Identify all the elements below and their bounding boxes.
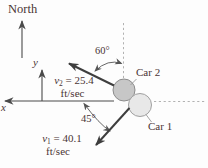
x-axis-label: x: [1, 102, 6, 113]
v2-value-label: v2 = 25.4: [50, 75, 98, 86]
diagram-canvas: [0, 0, 208, 168]
v1-vector: [96, 108, 130, 145]
car1-label: Car 1: [148, 121, 172, 132]
collision-diagram: North y x 60° 45° v2 = 25.4 ft/sec v1 = …: [0, 0, 208, 168]
car2-label: Car 2: [136, 67, 160, 78]
v2-value: = 25.4: [63, 74, 94, 86]
y-axis-label: y: [33, 57, 38, 68]
angle-45-label: 45°: [81, 114, 96, 125]
angle-60-arc: [95, 62, 122, 71]
v1-value-label: v1 = 40.1: [36, 133, 88, 144]
v1-unit-label: ft/sec: [36, 146, 80, 157]
car1-circle: [129, 94, 152, 117]
v1-value: = 40.1: [51, 132, 82, 144]
v2-unit-label: ft/sec: [50, 88, 95, 99]
north-label: North: [8, 3, 37, 16]
angle-60-label: 60°: [95, 46, 110, 57]
